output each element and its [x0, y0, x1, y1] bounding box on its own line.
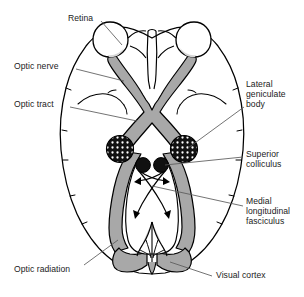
label-optic-tract: Optic tract [14, 99, 54, 109]
label-retina: Retina [68, 13, 93, 23]
label-optic-nerve: Optic nerve [14, 61, 59, 71]
label-visual-cortex: Visual cortex [216, 270, 266, 280]
label-lateral-geniculate-body: Lateral geniculate body [246, 79, 286, 110]
lgb-left [107, 136, 134, 163]
label-medial-longitudinal-fasciculus: Medial longitudinal fasciculus [246, 196, 290, 227]
colliculus-left [136, 158, 151, 173]
label-optic-radiation: Optic radiation [14, 264, 70, 274]
retina-right [176, 22, 211, 57]
visual-pathway-figure: Retina Optic nerve Optic tract Lateral g… [0, 0, 304, 297]
lgb-right [171, 136, 198, 163]
label-superior-colliculus: Superior colliculus [246, 149, 281, 169]
retina-left [93, 22, 128, 57]
